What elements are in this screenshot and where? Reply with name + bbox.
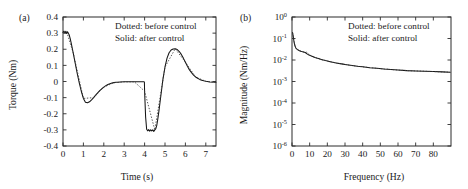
x-tick-label: 30 xyxy=(340,149,350,159)
x-tick-label: 50 xyxy=(376,149,386,159)
x-tick-label: 2 xyxy=(102,149,107,159)
x-tick-label: 60 xyxy=(393,149,403,159)
y-tick-label: 10-4 xyxy=(273,97,288,109)
x-tick-label: 3 xyxy=(122,149,127,159)
panel-b-xlabel: Frequency (Hz) xyxy=(344,171,404,183)
y-tick-label: 0.4 xyxy=(47,12,59,22)
x-tick-label: 20 xyxy=(323,149,333,159)
y-tick-label: -0.4 xyxy=(43,141,58,151)
panel-a-legend-solid: Solid: after control xyxy=(115,33,185,43)
series-dotted xyxy=(63,32,216,130)
x-tick-label: 4 xyxy=(142,149,147,159)
panel-a-ylabel: Torque (Nm) xyxy=(7,60,19,110)
panel-b-ylabel: Magnitude (Nm/Hz) xyxy=(238,46,250,125)
y-tick-label: 10-2 xyxy=(273,54,287,66)
panel-a-svg: (a) 01234567-0.4-0.3-0.2-0.100.10.20.30.… xyxy=(0,0,234,189)
y-tick-label: 0 xyxy=(53,77,58,87)
y-tick-label: -0.1 xyxy=(43,93,58,103)
panel-b-legend-dotted: Dotted: before control xyxy=(348,21,430,31)
x-tick-label: 0 xyxy=(61,149,66,159)
panel-a-label-group: (a) xyxy=(19,12,30,24)
y-tick-label: -0.2 xyxy=(43,109,58,119)
x-tick-label: 40 xyxy=(358,149,368,159)
x-tick-label: 0 xyxy=(290,149,295,159)
x-tick-label: 80 xyxy=(429,149,439,159)
x-tick-label: 10 xyxy=(305,149,315,159)
y-tick-label: 10-6 xyxy=(273,140,287,152)
y-tick-label: 10-1 xyxy=(273,32,287,44)
y-tick-label: 10-3 xyxy=(273,75,287,87)
panel-a: (a) 01234567-0.4-0.3-0.2-0.100.10.20.30.… xyxy=(0,0,234,189)
x-tick-label: 7 xyxy=(204,149,209,159)
panel-b-svg: (b) 0102030405060708010-610-510-410-310-… xyxy=(234,0,468,189)
x-tick-label: 70 xyxy=(411,149,421,159)
panel-a-label: (a) xyxy=(19,12,30,24)
panel-a-xlabel: Time (s) xyxy=(121,171,153,183)
x-tick-label: 6 xyxy=(183,149,188,159)
panel-a-curves xyxy=(63,31,216,131)
y-tick-label: 0.2 xyxy=(47,44,59,54)
panel-a-legend-dotted: Dotted: before control xyxy=(115,21,197,31)
y-tick-label: 0.3 xyxy=(47,28,59,38)
y-tick-label: 0.1 xyxy=(47,61,59,71)
panel-b-legend-solid: Solid: after control xyxy=(348,33,418,43)
y-tick-label: 10-5 xyxy=(273,118,287,130)
figure-container: (a) 01234567-0.4-0.3-0.2-0.100.10.20.30.… xyxy=(0,0,468,189)
x-tick-label: 1 xyxy=(81,149,86,159)
panel-b-label: (b) xyxy=(240,12,251,24)
panel-b: (b) 0102030405060708010-610-510-410-310-… xyxy=(234,0,468,189)
y-tick-label: -0.3 xyxy=(43,125,58,135)
y-tick-label: 100 xyxy=(275,11,287,23)
panel-b-label-group: (b) xyxy=(240,12,251,24)
x-tick-label: 5 xyxy=(163,149,168,159)
series-solid xyxy=(63,31,216,131)
